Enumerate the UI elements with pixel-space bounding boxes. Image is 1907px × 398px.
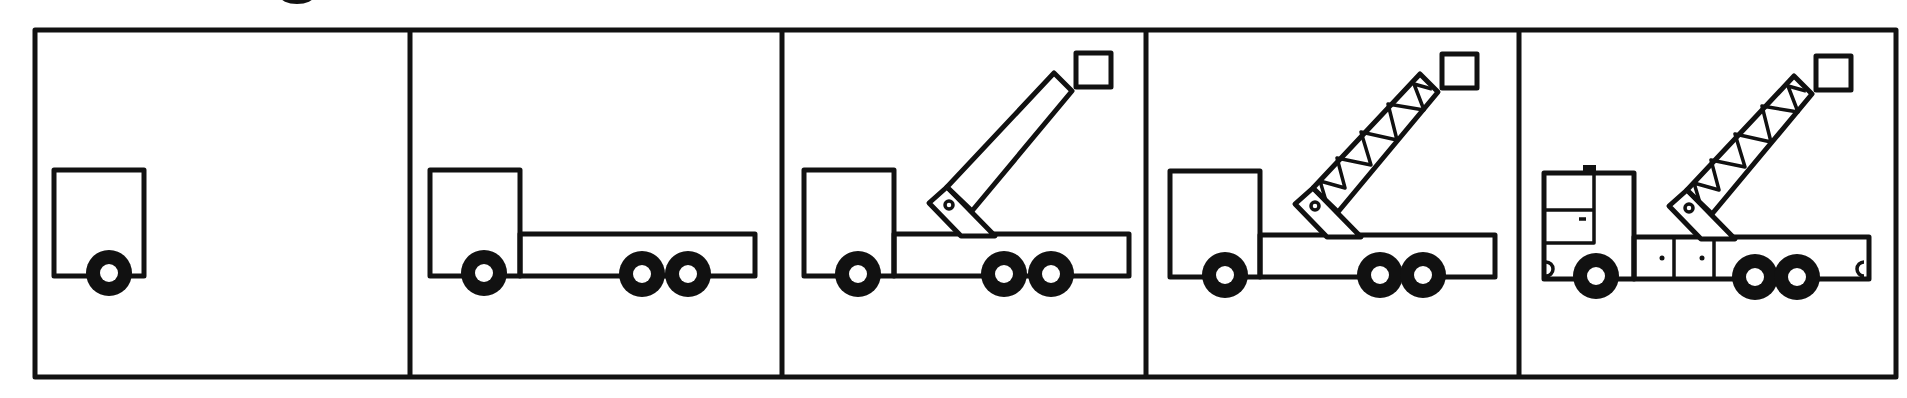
step-1-panel (54, 170, 144, 296)
cropped-shape-top (280, 0, 314, 4)
rear-wheel-icon (665, 251, 711, 297)
step-4-panel (1170, 54, 1495, 298)
rear-wheel-icon (1732, 254, 1778, 300)
front-wheel-icon (86, 250, 132, 296)
front-wheel-icon (1202, 252, 1248, 298)
rear-wheel-icon (1400, 252, 1446, 298)
front-wheel-icon (835, 251, 881, 297)
rear-wheel-icon (619, 251, 665, 297)
step-3-panel (804, 53, 1129, 297)
drawing-canvas (0, 0, 1907, 398)
ladder-truss (1295, 54, 1477, 237)
rear-wheel-icon (1774, 254, 1820, 300)
rear-wheel-icon (1357, 252, 1403, 298)
rear-wheel-icon (1028, 251, 1074, 297)
rear-wheel-icon (981, 251, 1027, 297)
step-by-step-drawing: How to draw a fire truck with a ladder —… (0, 0, 1907, 398)
boom-arm (929, 53, 1111, 236)
compartment-handle-icon (1700, 256, 1705, 261)
compartment-handle-icon (1660, 256, 1665, 261)
ladder-truss (1669, 56, 1851, 239)
front-wheel-icon (1573, 253, 1619, 299)
front-wheel-icon (461, 250, 507, 296)
headlight-icon (1546, 262, 1553, 276)
step-2-panel (430, 170, 755, 297)
step-5-panel (1544, 56, 1869, 300)
taillight-icon (1857, 262, 1864, 276)
siren-light-icon (1583, 165, 1596, 174)
